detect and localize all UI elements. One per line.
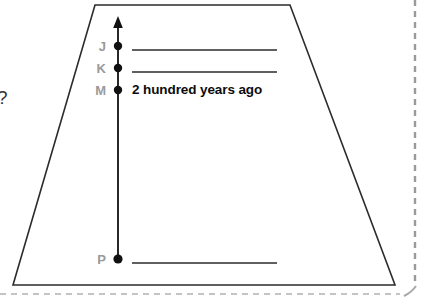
- axis-dot-p: [113, 254, 122, 263]
- annotation-two-hundred-years-ago: 2 hundred years ago: [132, 83, 262, 97]
- axis-dot-j: [114, 42, 122, 50]
- diagram-vector-layer: [0, 0, 422, 297]
- axis-dot-m: [114, 86, 122, 94]
- left-question-mark: ?: [0, 88, 8, 107]
- tick-label-p: P: [88, 253, 106, 266]
- axis-dot-k: [114, 64, 122, 72]
- tick-label-m: M: [86, 84, 106, 97]
- diagram-canvas: J K M P 2 hundred years ago ?: [0, 0, 422, 297]
- tick-label-k: K: [88, 62, 106, 75]
- corner-curve-marker: [404, 286, 416, 296]
- tick-label-j: J: [88, 40, 106, 53]
- trapezoid-frame: [13, 5, 395, 285]
